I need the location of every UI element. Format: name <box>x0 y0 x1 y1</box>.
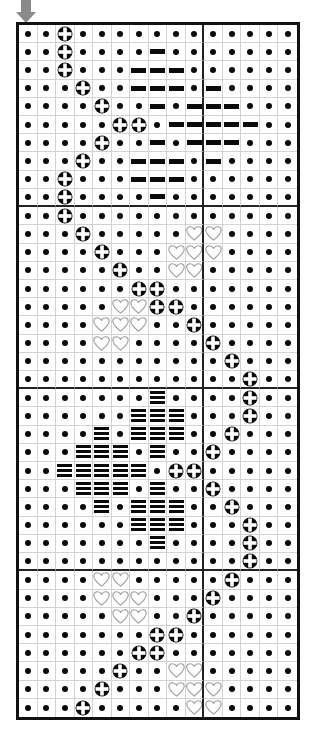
stitch-cell[interactable] <box>149 662 168 680</box>
stitch-cell[interactable] <box>223 371 242 389</box>
stitch-cell[interactable] <box>112 43 131 61</box>
stitch-cell[interactable] <box>112 98 131 116</box>
stitch-cell[interactable] <box>204 462 223 480</box>
stitch-cell[interactable] <box>278 353 297 371</box>
stitch-cell[interactable] <box>260 207 279 225</box>
stitch-cell[interactable] <box>186 316 205 334</box>
stitch-cell[interactable] <box>56 681 75 699</box>
stitch-cell[interactable] <box>130 535 149 553</box>
stitch-cell[interactable] <box>38 608 57 626</box>
stitch-cell[interactable] <box>112 535 131 553</box>
stitch-cell[interactable] <box>278 116 297 134</box>
stitch-cell[interactable] <box>167 225 186 243</box>
stitch-cell[interactable] <box>38 444 57 462</box>
stitch-cell[interactable] <box>130 353 149 371</box>
stitch-cell[interactable] <box>204 116 223 134</box>
stitch-cell[interactable] <box>260 590 279 608</box>
stitch-cell[interactable] <box>56 61 75 79</box>
stitch-cell[interactable] <box>130 590 149 608</box>
stitch-cell[interactable] <box>186 353 205 371</box>
stitch-cell[interactable] <box>186 608 205 626</box>
stitch-cell[interactable] <box>19 262 38 280</box>
stitch-cell[interactable] <box>260 189 279 207</box>
stitch-cell[interactable] <box>112 335 131 353</box>
stitch-cell[interactable] <box>167 298 186 316</box>
stitch-cell[interactable] <box>241 517 260 535</box>
stitch-cell[interactable] <box>186 571 205 589</box>
stitch-cell[interactable] <box>93 535 112 553</box>
stitch-cell[interactable] <box>278 207 297 225</box>
stitch-cell[interactable] <box>186 25 205 43</box>
stitch-cell[interactable] <box>19 462 38 480</box>
stitch-cell[interactable] <box>223 480 242 498</box>
stitch-cell[interactable] <box>223 626 242 644</box>
stitch-cell[interactable] <box>93 571 112 589</box>
stitch-cell[interactable] <box>112 681 131 699</box>
stitch-cell[interactable] <box>223 207 242 225</box>
stitch-cell[interactable] <box>19 61 38 79</box>
stitch-cell[interactable] <box>19 681 38 699</box>
stitch-cell[interactable] <box>260 407 279 425</box>
stitch-cell[interactable] <box>112 207 131 225</box>
stitch-cell[interactable] <box>149 298 168 316</box>
stitch-cell[interactable] <box>167 644 186 662</box>
stitch-cell[interactable] <box>167 316 186 334</box>
stitch-cell[interactable] <box>19 134 38 152</box>
stitch-cell[interactable] <box>56 171 75 189</box>
stitch-cell[interactable] <box>278 189 297 207</box>
stitch-cell[interactable] <box>93 407 112 425</box>
stitch-cell[interactable] <box>19 407 38 425</box>
stitch-cell[interactable] <box>260 61 279 79</box>
stitch-cell[interactable] <box>149 608 168 626</box>
stitch-cell[interactable] <box>278 590 297 608</box>
stitch-cell[interactable] <box>19 644 38 662</box>
stitch-cell[interactable] <box>19 298 38 316</box>
stitch-cell[interactable] <box>38 644 57 662</box>
stitch-cell[interactable] <box>38 371 57 389</box>
stitch-cell[interactable] <box>93 462 112 480</box>
stitch-cell[interactable] <box>204 134 223 152</box>
stitch-cell[interactable] <box>38 98 57 116</box>
stitch-cell[interactable] <box>19 207 38 225</box>
stitch-cell[interactable] <box>167 681 186 699</box>
stitch-cell[interactable] <box>278 371 297 389</box>
stitch-cell[interactable] <box>149 553 168 571</box>
stitch-cell[interactable] <box>223 535 242 553</box>
stitch-cell[interactable] <box>223 25 242 43</box>
stitch-cell[interactable] <box>149 535 168 553</box>
stitch-cell[interactable] <box>56 298 75 316</box>
stitch-cell[interactable] <box>186 152 205 170</box>
stitch-cell[interactable] <box>130 43 149 61</box>
stitch-cell[interactable] <box>149 116 168 134</box>
stitch-cell[interactable] <box>167 262 186 280</box>
stitch-cell[interactable] <box>93 644 112 662</box>
stitch-cell[interactable] <box>204 98 223 116</box>
stitch-cell[interactable] <box>204 535 223 553</box>
stitch-cell[interactable] <box>56 280 75 298</box>
stitch-cell[interactable] <box>241 207 260 225</box>
stitch-cell[interactable] <box>260 389 279 407</box>
stitch-cell[interactable] <box>19 626 38 644</box>
stitch-cell[interactable] <box>56 535 75 553</box>
stitch-cell[interactable] <box>167 335 186 353</box>
stitch-cell[interactable] <box>19 662 38 680</box>
stitch-cell[interactable] <box>278 571 297 589</box>
stitch-cell[interactable] <box>56 43 75 61</box>
stitch-cell[interactable] <box>93 371 112 389</box>
stitch-cell[interactable] <box>241 262 260 280</box>
stitch-cell[interactable] <box>93 43 112 61</box>
stitch-cell[interactable] <box>167 353 186 371</box>
stitch-cell[interactable] <box>278 171 297 189</box>
stitch-cell[interactable] <box>93 590 112 608</box>
stitch-cell[interactable] <box>112 189 131 207</box>
stitch-cell[interactable] <box>112 171 131 189</box>
stitch-cell[interactable] <box>223 225 242 243</box>
stitch-cell[interactable] <box>241 43 260 61</box>
stitch-cell[interactable] <box>56 116 75 134</box>
stitch-cell[interactable] <box>278 480 297 498</box>
stitch-cell[interactable] <box>56 480 75 498</box>
stitch-cell[interactable] <box>75 426 94 444</box>
stitch-cell[interactable] <box>167 608 186 626</box>
stitch-cell[interactable] <box>223 116 242 134</box>
stitch-cell[interactable] <box>112 426 131 444</box>
